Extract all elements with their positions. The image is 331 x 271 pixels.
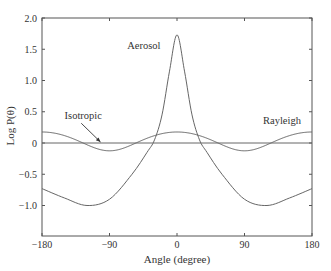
x-tick-label: 180 xyxy=(305,239,320,250)
annotation-rayleigh: Rayleigh xyxy=(263,115,302,126)
annotation-isotropic: Isotropic xyxy=(65,110,103,121)
x-axis-label: Angle (degree) xyxy=(144,253,211,266)
y-tick-label: 0.5 xyxy=(25,106,38,117)
x-tick-label: −90 xyxy=(102,239,118,250)
phase-function-chart: −180−900901802.01.51.00.50−0.5−1.0 Aeros… xyxy=(0,0,331,271)
annotation-aerosol: Aerosol xyxy=(127,40,160,51)
y-tick-label: −0.5 xyxy=(19,169,37,180)
plot-border xyxy=(42,18,312,236)
y-tick-label: 2.0 xyxy=(25,13,38,24)
y-tick-label: 1.0 xyxy=(25,75,38,86)
y-tick-label: −1.0 xyxy=(19,200,37,211)
y-axis-label: Log P(θ) xyxy=(4,106,17,146)
x-tick-label: 90 xyxy=(240,239,250,250)
axis-ticks: −180−900901802.01.51.00.50−0.5−1.0 xyxy=(19,13,320,251)
plot-frame xyxy=(42,18,312,236)
rayleigh-line xyxy=(42,132,312,151)
y-tick-label: 1.5 xyxy=(25,44,38,55)
annotations: AerosolIsotropicRayleigh xyxy=(65,40,302,142)
x-tick-label: −180 xyxy=(32,239,53,250)
y-tick-label: 0 xyxy=(32,138,37,149)
x-tick-label: 0 xyxy=(175,239,180,250)
